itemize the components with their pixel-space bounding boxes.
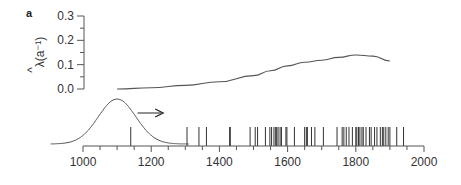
svg-text:1400: 1400 — [206, 155, 233, 169]
svg-text:1200: 1200 — [138, 155, 165, 169]
gaussian-curve — [51, 99, 189, 144]
y-axis: 0.00.10.20.3 — [57, 9, 84, 96]
svg-text:2000: 2000 — [411, 155, 438, 169]
chart-figure: 0.00.10.20.3 100012001400160018002000 λ(… — [0, 0, 461, 185]
svg-text:0.1: 0.1 — [57, 58, 74, 72]
svg-text:0.0: 0.0 — [57, 82, 74, 96]
svg-text:0.3: 0.3 — [57, 9, 74, 23]
svg-text:λ(a⁻¹): λ(a⁻¹) — [33, 37, 47, 68]
arrow-icon — [138, 109, 164, 117]
x-axis: 100012001400160018002000 — [70, 146, 438, 169]
y-axis-label: λ(a⁻¹)^ — [25, 37, 47, 73]
svg-text:1000: 1000 — [70, 155, 97, 169]
svg-text:1800: 1800 — [342, 155, 369, 169]
rate-curve — [117, 55, 390, 89]
svg-text:1600: 1600 — [274, 155, 301, 169]
svg-text:0.2: 0.2 — [57, 33, 74, 47]
svg-text:^: ^ — [25, 67, 39, 73]
